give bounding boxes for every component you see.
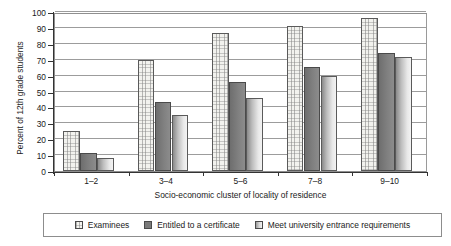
- legend-label: Entitled to a certificate: [157, 220, 239, 230]
- chart-figure: Percent of 12th grade students 010203040…: [0, 0, 451, 246]
- y-tick-label: 0: [20, 167, 46, 177]
- y-tick-label: 30: [20, 119, 46, 129]
- y-tick-label: 90: [20, 24, 46, 34]
- y-tick-label: 40: [20, 103, 46, 113]
- gridline: [55, 11, 426, 12]
- legend-item[interactable]: Examinees: [75, 220, 129, 230]
- legend-label: Examinees: [88, 220, 129, 230]
- chart-legend: Examinees Entitled to a certificate Meet…: [43, 213, 442, 237]
- x-tick-label: 1–2: [54, 176, 129, 186]
- y-tick-label: 50: [20, 88, 46, 98]
- x-tick-label: 9–10: [352, 176, 427, 186]
- x-axis-title: Socio-economic cluster of locality of re…: [54, 190, 427, 200]
- y-tick-label: 100: [20, 8, 46, 18]
- y-tick-label: 60: [20, 72, 46, 82]
- x-tick-label: 5–6: [203, 176, 278, 186]
- legend-swatch-examinees-icon: [75, 221, 83, 229]
- legend-swatch-university-icon: [255, 221, 263, 229]
- bar-group: [55, 14, 428, 171]
- x-axis-line: [53, 172, 428, 173]
- y-tick-label: 20: [20, 135, 46, 145]
- y-tick-label: 70: [20, 56, 46, 66]
- bar: [395, 57, 412, 171]
- y-tick-label: 10: [20, 151, 46, 161]
- bar: [361, 18, 378, 171]
- y-tick-label: 80: [20, 40, 46, 50]
- plot-area: [54, 13, 427, 172]
- x-tick-mark: [427, 172, 428, 176]
- x-tick-label: 7–8: [278, 176, 353, 186]
- legend-swatch-entitled-icon: [144, 221, 152, 229]
- legend-item[interactable]: Meet university entrance requirements: [255, 220, 410, 230]
- x-tick-label: 3–4: [129, 176, 204, 186]
- legend-item[interactable]: Entitled to a certificate: [144, 220, 239, 230]
- bar: [378, 53, 395, 171]
- legend-label: Meet university entrance requirements: [268, 220, 410, 230]
